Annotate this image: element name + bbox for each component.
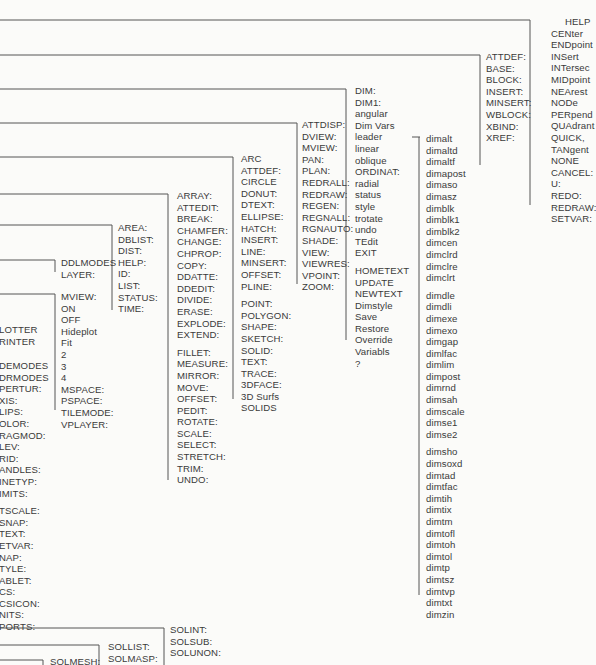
menu-item[interactable]: dimaso [426,179,466,191]
menu-item[interactable]: REDRAW: [551,202,596,214]
menu-item[interactable]: NODe [551,97,596,109]
menu-item[interactable]: XREF: [486,132,531,144]
menu-item[interactable]: STATUS: [118,292,158,304]
menu-item[interactable]: SOLINT: [170,624,221,636]
menu-item[interactable]: VIEW: [302,247,353,259]
menu-item[interactable]: SCALE: [177,428,228,440]
menu-item[interactable]: CENter [551,28,596,40]
menu-item[interactable]: LOTTER [0,324,37,336]
menu-item[interactable]: ATTEDIT: [177,202,228,214]
menu-item[interactable]: DIM1: [355,97,409,109]
menu-item[interactable]: MEASURE: [177,358,228,370]
menu-item[interactable]: dimdle [426,290,466,302]
menu-item[interactable]: dimclre [426,261,466,273]
menu-item[interactable]: dimexo [426,325,466,337]
menu-item[interactable]: EXTEND: [177,329,228,341]
menu-item[interactable]: dimpost [426,371,466,383]
menu-item[interactable]: dimgap [426,336,466,348]
menu-item[interactable]: DIM: [355,85,409,97]
menu-item[interactable]: oblique [355,155,409,167]
menu-item[interactable]: PLAN: [302,165,353,177]
menu-item[interactable]: OFFSET: [177,393,228,405]
menu-item[interactable]: undo [355,224,409,236]
menu-item[interactable]: DRMODES [0,372,49,384]
menu-item[interactable]: CHAMFER: [177,225,228,237]
menu-item[interactable]: Save [355,311,409,323]
menu-item[interactable]: INETYP: [0,476,49,488]
menu-item[interactable]: HATCH: [241,223,291,235]
menu-item[interactable]: dimtsz [426,574,466,586]
menu-item[interactable]: U: [551,178,596,190]
menu-item[interactable]: dimsoxd [426,458,466,470]
menu-item[interactable]: Restore [355,323,409,335]
menu-item[interactable]: Variabls [355,346,409,358]
menu-item[interactable]: COPY: [177,260,228,272]
menu-item[interactable]: 3 [61,361,114,373]
menu-item[interactable]: ELLIPSE: [241,211,291,223]
menu-item[interactable]: INSert [551,51,596,63]
menu-item[interactable]: dimzin [426,609,466,621]
menu-item[interactable]: ZOOM: [302,281,353,293]
menu-item[interactable]: OFF [61,314,114,326]
menu-item[interactable]: MVIEW: [302,142,353,154]
menu-item[interactable]: NONE [551,155,596,167]
menu-item[interactable]: REGNALL: [302,212,353,224]
menu-item[interactable]: RINTER [0,336,37,348]
menu-item[interactable]: dimclrd [426,249,466,261]
menu-item[interactable]: 2 [61,349,114,361]
menu-item[interactable]: BREAK: [177,213,228,225]
menu-item[interactable]: PERTUR: [0,383,49,395]
menu-item[interactable]: MOVE: [177,382,228,394]
menu-item[interactable]: trotate [355,213,409,225]
menu-item[interactable]: REDO: [551,190,596,202]
menu-item[interactable]: SOLID: [241,345,291,357]
menu-item[interactable]: dimasz [426,191,466,203]
menu-item[interactable]: ANDLES: [0,464,49,476]
menu-item[interactable]: dimtad [426,470,466,482]
menu-item[interactable]: dimtxt [426,597,466,609]
menu-item[interactable]: PSPACE: [61,395,114,407]
menu-item[interactable]: NEArest [551,86,596,98]
menu-item[interactable]: EXIT [355,247,409,259]
menu-item[interactable]: UPDATE [355,277,409,289]
menu-item[interactable]: dimapost [426,168,466,180]
menu-item[interactable]: PORTS: [0,621,49,633]
menu-item[interactable]: AREA: [118,222,158,234]
menu-item[interactable]: SOLIDS [241,402,291,414]
menu-item[interactable]: DDLMODES [61,257,116,269]
menu-item[interactable]: SKETCH: [241,333,291,345]
menu-item[interactable]: CHPROP: [177,248,228,260]
menu-item[interactable]: dimlim [426,359,466,371]
menu-item[interactable]: linear [355,143,409,155]
menu-item[interactable]: REDRAW: [302,189,353,201]
menu-item[interactable]: UNDO: [177,474,228,486]
menu-item[interactable]: FILLET: [177,347,228,359]
menu-item[interactable]: DONUT: [241,188,291,200]
menu-item[interactable]: DIST: [118,245,158,257]
menu-item[interactable]: MSPACE: [61,384,114,396]
menu-item[interactable]: REDRALL: [302,177,353,189]
menu-item[interactable]: MVIEW: [61,291,114,303]
menu-item[interactable]: SELECT: [177,439,228,451]
menu-item[interactable]: dimblk1 [426,214,466,226]
menu-item[interactable]: Dim Vars [355,120,409,132]
menu-item[interactable]: SETVAR: [551,213,596,225]
menu-item[interactable]: dimlfac [426,348,466,360]
menu-item[interactable]: dimexe [426,313,466,325]
menu-item[interactable]: DTEXT: [241,199,291,211]
menu-item[interactable]: BLOCK: [486,74,531,86]
menu-item[interactable]: ROTATE: [177,416,228,428]
menu-item[interactable]: ID: [118,268,158,280]
menu-item[interactable]: ATTDEF: [241,165,291,177]
menu-item[interactable]: EXPLODE: [177,318,228,330]
menu-item[interactable]: MIDpoint [551,74,596,86]
menu-item[interactable]: LIST: [118,280,158,292]
menu-item[interactable]: dimblk2 [426,226,466,238]
menu-item[interactable]: RAGMOD: [0,430,49,442]
menu-item[interactable]: HELP [551,16,596,28]
menu-item[interactable]: 4 [61,372,114,384]
menu-item[interactable]: dimsah [426,394,466,406]
menu-item[interactable]: angular [355,108,409,120]
menu-item[interactable]: radial [355,178,409,190]
menu-item[interactable]: LAYER: [61,269,116,281]
